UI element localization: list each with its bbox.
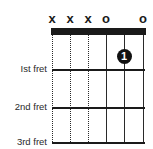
nut: [51, 28, 146, 35]
fret-line-3: [52, 142, 145, 144]
string-3: [88, 35, 89, 144]
fret-line-1: [52, 69, 145, 71]
open-marker-string-4: o: [99, 12, 113, 26]
string-6: [143, 35, 144, 144]
fret-label-2: 2nd fret: [0, 101, 47, 113]
finger-number: 1: [121, 50, 127, 62]
fret-label-3: 3rd fret: [0, 136, 47, 148]
open-marker-string-6: o: [136, 12, 150, 26]
fret-label-1: Ist fret: [0, 63, 47, 75]
muted-marker-string-3: x: [81, 12, 95, 26]
string-1: [52, 35, 53, 144]
muted-marker-string-1: x: [45, 12, 59, 26]
muted-marker-string-2: x: [63, 12, 77, 26]
fret-line-2: [52, 107, 145, 109]
chord-diagram: x x x o o Ist fret 2nd fret 3rd fret 1: [0, 0, 153, 149]
finger-dot: 1: [117, 49, 132, 64]
string-4: [106, 35, 107, 144]
string-2: [70, 35, 71, 144]
